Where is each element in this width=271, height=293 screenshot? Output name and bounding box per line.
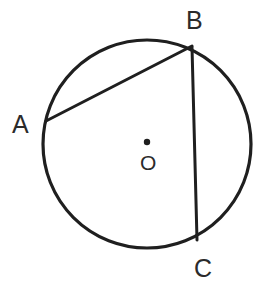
chord-ab xyxy=(46,46,192,121)
center-label-o: O xyxy=(140,152,156,173)
geometry-figure: A B C O xyxy=(0,0,271,293)
circle-diagram-canvas xyxy=(0,0,271,293)
center-dot xyxy=(144,139,150,145)
point-label-c: C xyxy=(194,256,212,281)
chord-bc xyxy=(192,47,197,240)
point-label-b: B xyxy=(186,8,203,33)
point-label-a: A xyxy=(12,112,29,137)
